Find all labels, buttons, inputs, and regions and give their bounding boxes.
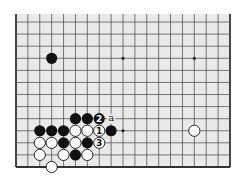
black-stone (46, 125, 57, 136)
white-stone (34, 149, 45, 160)
white-stone (70, 125, 81, 136)
black-stone-icon (46, 125, 57, 136)
white-stone-icon (58, 149, 69, 160)
white-stone (82, 125, 93, 136)
star-point-icon (121, 129, 124, 132)
black-stone (58, 125, 69, 136)
move-number-label: 3 (96, 138, 102, 148)
go-board-diagram: 213 a (0, 0, 247, 181)
white-stone: 3 (94, 137, 105, 148)
white-stone (82, 149, 93, 160)
white-stone-icon (46, 161, 57, 172)
black-stone-icon (70, 113, 81, 124)
white-stone-icon (189, 125, 200, 136)
black-stone-icon (70, 149, 81, 160)
white-stone (46, 137, 57, 148)
black-stone-icon (58, 125, 69, 136)
black-stone: 2 (94, 113, 105, 124)
white-stone-icon (34, 137, 45, 148)
white-stone (70, 137, 81, 148)
move-number-label: 2 (96, 114, 102, 124)
black-stone (34, 125, 45, 136)
black-stone (82, 137, 93, 148)
white-stone-icon (70, 137, 81, 148)
black-stone-icon (46, 53, 57, 64)
black-stone-icon (106, 125, 117, 136)
white-stone (34, 137, 45, 148)
white-stone-icon (82, 149, 93, 160)
star-point-icon (193, 57, 196, 60)
move-number-label: 1 (96, 126, 102, 136)
white-stone-icon (34, 149, 45, 160)
white-stone-icon (82, 125, 93, 136)
white-stone (58, 149, 69, 160)
white-stone (46, 161, 57, 172)
black-stone-icon (58, 137, 69, 148)
black-stone (82, 113, 93, 124)
black-stone (106, 125, 117, 136)
white-stone-icon (70, 125, 81, 136)
black-stone-icon (82, 137, 93, 148)
black-stone-icon (34, 125, 45, 136)
point-marker-label: a (108, 112, 114, 123)
white-stone-icon (46, 137, 57, 148)
star-point-icon (121, 57, 124, 60)
black-stone (70, 113, 81, 124)
black-stone-icon (82, 113, 93, 124)
go-board: 213 a (0, 0, 247, 181)
white-stone (189, 125, 200, 136)
black-stone (46, 53, 57, 64)
markers-layer: a (107, 112, 115, 124)
black-stone (70, 149, 81, 160)
white-stone: 1 (94, 125, 105, 136)
black-stone (58, 137, 69, 148)
